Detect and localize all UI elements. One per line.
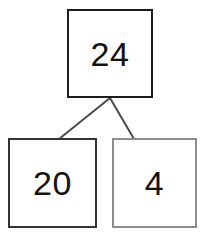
connector-line-right [110,98,134,139]
connector-line-left [59,98,110,139]
part-node-right-value: 4 [145,166,164,200]
number-bond-diagram: 24 20 4 [0,0,202,241]
part-node-left-value: 20 [33,166,72,200]
total-node-value: 24 [91,37,130,71]
part-node-right: 4 [112,138,197,228]
part-node-left: 20 [8,138,97,228]
total-node: 24 [67,9,153,98]
